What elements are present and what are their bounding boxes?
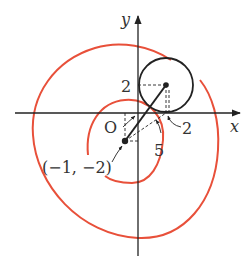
origin-leader-arrow [123, 116, 135, 127]
point-leader-arrow [112, 146, 122, 162]
distance-label: 5 [154, 141, 164, 160]
center-y-label: 2 [121, 77, 131, 96]
point-dot [122, 138, 128, 144]
origin-label: O [104, 118, 117, 137]
y-axis-label: y [120, 10, 131, 29]
radius-leader-arrow [168, 116, 181, 127]
center-x-label: 2 [182, 119, 192, 138]
coordinate-diagram: y x O 2 2 5 (−1, −2) [0, 0, 248, 261]
point-label: (−1, −2) [42, 158, 112, 177]
x-axis-label: x [230, 117, 239, 136]
